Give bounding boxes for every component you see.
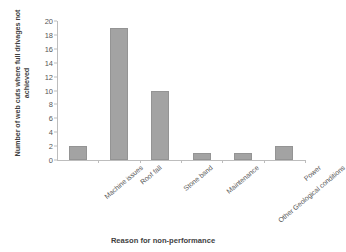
y-tick-mark: [54, 118, 57, 119]
x-tick-mark: [222, 160, 223, 163]
y-tick-mark: [54, 21, 57, 22]
x-tick-label-text: Power: [303, 164, 323, 182]
bar: [110, 28, 128, 160]
y-tick-mark: [54, 76, 57, 77]
bar: [275, 146, 293, 160]
y-tick-mark: [54, 146, 57, 147]
x-tick-mark: [305, 160, 306, 163]
plot-area: 02468101214161820: [57, 21, 305, 160]
x-tick-label: Power: [303, 164, 323, 182]
x-tick-label-text: Machine issues: [103, 164, 144, 200]
y-tick-label: 0: [49, 156, 53, 165]
x-tick-mark: [264, 160, 265, 163]
x-tick-mark: [140, 160, 141, 163]
y-tick-label: 20: [45, 17, 53, 26]
y-tick-label: 2: [49, 142, 53, 151]
x-tick-label: Stone band: [183, 164, 215, 192]
y-axis-title: Number of web cuts where full drivages n…: [13, 3, 31, 163]
x-tick-label: Maintenance: [225, 164, 260, 195]
y-tick-mark: [54, 160, 57, 161]
x-tick-label: Machine issues: [103, 164, 144, 200]
y-tick-mark: [54, 104, 57, 105]
y-tick-mark: [54, 132, 57, 133]
y-tick-mark: [54, 90, 57, 91]
bar: [234, 153, 252, 160]
y-tick-label: 6: [49, 114, 53, 123]
bar: [193, 153, 211, 160]
y-tick-label: 4: [49, 128, 53, 137]
y-tick-label: 10: [45, 86, 53, 95]
x-tick-label-text: Stone band: [183, 164, 215, 192]
x-tick-mark: [98, 160, 99, 163]
bar: [151, 91, 169, 161]
y-tick-label: 18: [45, 30, 53, 39]
y-tick-label: 12: [45, 72, 53, 81]
x-tick-label-text: Maintenance: [225, 164, 260, 195]
bar: [69, 146, 87, 160]
y-tick-label: 8: [49, 100, 53, 109]
y-tick-mark: [54, 48, 57, 49]
x-tick-mark: [181, 160, 182, 163]
y-tick-mark: [54, 62, 57, 63]
y-tick-label: 14: [45, 58, 53, 67]
y-tick-mark: [54, 34, 57, 35]
x-axis-title: Reason for non-performance: [0, 236, 326, 245]
y-tick-label: 16: [45, 44, 53, 53]
